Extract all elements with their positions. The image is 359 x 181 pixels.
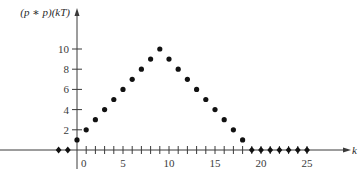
zero-point-diamond (277, 146, 283, 153)
data-points (56, 46, 310, 153)
data-point (102, 107, 107, 112)
x-axis-arrow-icon (343, 148, 351, 153)
data-point (139, 67, 144, 72)
zero-point-diamond (258, 146, 264, 153)
data-point (111, 97, 116, 102)
data-point (231, 127, 236, 132)
data-point (93, 117, 98, 122)
data-point (120, 87, 125, 92)
zero-point-diamond (56, 146, 62, 153)
data-point (194, 87, 199, 92)
y-tick-label: 2 (64, 124, 70, 136)
zero-point-diamond (65, 146, 71, 153)
zero-point-diamond (267, 146, 273, 153)
convolution-stem-chart: 0510152025246810 (p ∗ p)(kT) k (0, 0, 359, 181)
zero-point-diamond (304, 146, 310, 153)
y-tick-label: 6 (64, 83, 70, 95)
zero-point-diamond (286, 146, 292, 153)
data-point (84, 127, 89, 132)
y-axis-title: (p ∗ p)(kT) (20, 6, 70, 19)
y-tick-label: 4 (64, 104, 70, 116)
data-point (212, 107, 217, 112)
x-tick-label: 25 (302, 157, 314, 169)
x-tick-label: 5 (120, 157, 126, 169)
data-point (222, 117, 227, 122)
zero-point-diamond (295, 146, 301, 153)
x-tick-label: 15 (210, 157, 222, 169)
data-point (203, 97, 208, 102)
data-point (176, 67, 181, 72)
axes (0, 8, 351, 169)
data-point (166, 57, 171, 62)
x-tick-label: 0 (81, 157, 87, 169)
x-axis-title: k (352, 144, 358, 156)
y-tick-label: 10 (58, 43, 70, 55)
data-point (185, 77, 190, 82)
data-point (157, 46, 162, 51)
y-tick-label: 8 (64, 63, 70, 75)
data-point (130, 77, 135, 82)
data-point (74, 137, 79, 142)
data-point (240, 137, 245, 142)
data-point (148, 57, 153, 62)
y-axis-arrow-icon (75, 8, 80, 16)
x-tick-label: 10 (164, 157, 176, 169)
zero-point-diamond (249, 146, 255, 153)
x-tick-label: 20 (256, 157, 268, 169)
